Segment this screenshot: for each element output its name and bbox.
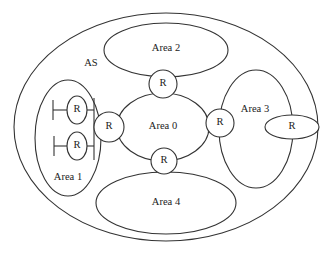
ospf-diagram: AS Area 2 Area 4 Area 3 Area 1 Area 0 R … — [0, 0, 332, 254]
router-label: R — [73, 103, 80, 114]
router-label: R — [105, 120, 112, 131]
area-1-label: Area 1 — [54, 171, 82, 182]
router-label: R — [216, 116, 223, 127]
router-label: R — [159, 77, 166, 88]
router-area0-area1: R — [94, 112, 124, 142]
as-label: AS — [84, 57, 98, 68]
router-area0-area2: R — [149, 70, 177, 98]
router-label: R — [73, 139, 80, 150]
area-2-label: Area 2 — [152, 42, 180, 53]
area-0-label: Area 0 — [149, 120, 177, 131]
router-area1-bottom: R — [67, 132, 87, 160]
router-area3: R — [265, 115, 319, 139]
router-area0-area4: R — [151, 148, 177, 174]
area-3-label: Area 3 — [241, 103, 269, 114]
router-area0-area3: R — [206, 109, 234, 137]
router-area1-top: R — [67, 96, 87, 124]
router-label: R — [288, 120, 295, 131]
router-label: R — [160, 154, 167, 165]
area-4-label: Area 4 — [152, 196, 181, 207]
